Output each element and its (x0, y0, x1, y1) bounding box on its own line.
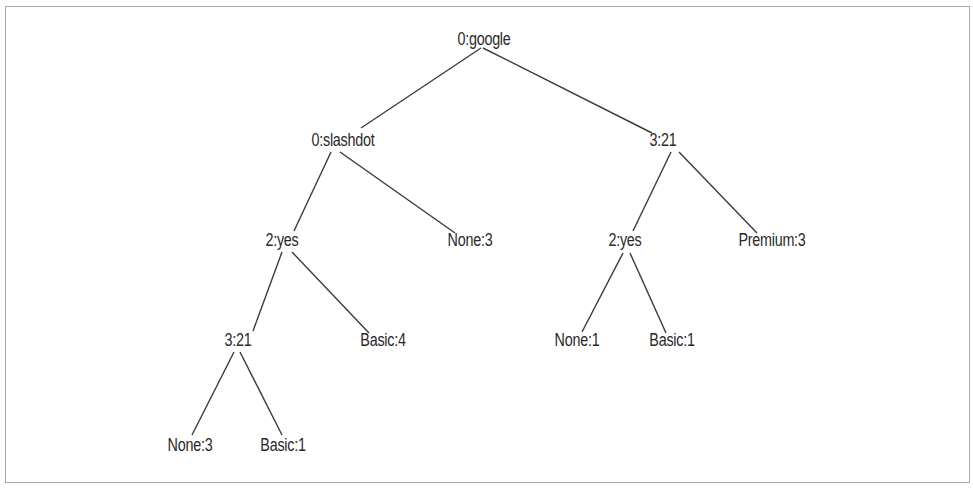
leaf-none-3-bottom: None:3 (163, 435, 218, 456)
leaf-basic-1-right: Basic:1 (644, 330, 699, 351)
edge-yes-321 (253, 252, 282, 331)
leaf-premium-3: Premium:3 (731, 230, 813, 251)
edge-321-none3 (192, 352, 234, 435)
node-321-right: 3:21 (647, 130, 680, 151)
edge-yes-none1 (582, 253, 623, 332)
edge-google-321 (483, 48, 652, 133)
leaf-none-3: None:3 (443, 230, 498, 251)
node-321-left: 3:21 (222, 330, 255, 351)
edge-yes-basic4 (292, 252, 369, 333)
leaf-basic-1-bottom: Basic:1 (255, 435, 310, 456)
edge-slashdot-yes (294, 152, 331, 231)
leaf-none-1: None:1 (550, 330, 605, 351)
node-yes-right: 2:yes (605, 230, 645, 251)
node-yes-left: 2:yes (262, 230, 302, 251)
edge-slashdot-none3 (340, 152, 455, 233)
edge-321-basic1 (240, 352, 282, 435)
edge-google-slashdot (361, 48, 481, 128)
edge-yes-basic1 (630, 253, 666, 333)
leaf-basic-4: Basic:4 (355, 330, 410, 351)
node-root-google: 0:google (452, 29, 517, 50)
edge-321-yes (633, 152, 671, 231)
node-slashdot: 0:slashdot (305, 130, 382, 151)
edge-321-premium3 (679, 152, 757, 233)
